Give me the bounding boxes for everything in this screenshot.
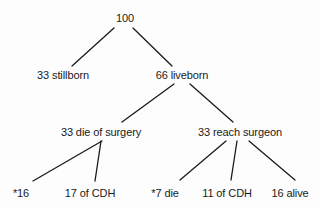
- node-16-alive: 16 alive: [271, 187, 308, 199]
- node-11-of-cdh: 11 of CDH: [202, 187, 252, 199]
- edge-liveborn-to-die_of_surgery: [122, 84, 174, 122]
- node-33-stillborn: 33 stillborn: [37, 69, 89, 81]
- node-17-of-cdh: 17 of CDH: [65, 187, 115, 199]
- edge-die_of_surgery-to-of_cdh_17: [95, 141, 101, 181]
- tree-diagram: 100 33 stillborn 66 liveborn 33 die of s…: [0, 0, 321, 209]
- tree-edges: [0, 0, 321, 209]
- edge-liveborn-to-reach_surgeon: [190, 84, 233, 122]
- edge-reach_surgeon-to-star7_die: [180, 141, 226, 180]
- edge-root-to-liveborn: [133, 28, 172, 66]
- node-star-16: *16: [13, 187, 29, 199]
- edge-die_of_surgery-to-star16: [33, 141, 102, 181]
- edge-reach_surgeon-to-of_cdh_11: [231, 141, 237, 180]
- edge-root-to-stillborn: [72, 28, 114, 66]
- edge-reach_surgeon-to-alive_16: [249, 141, 295, 180]
- node-33-reach-surgeon: 33 reach surgeon: [198, 126, 282, 138]
- node-star-7-die: *7 die: [151, 187, 179, 199]
- node-66-liveborn: 66 liveborn: [156, 69, 209, 81]
- node-root-100: 100: [116, 12, 134, 24]
- node-33-die-of-surgery: 33 die of surgery: [61, 126, 141, 138]
